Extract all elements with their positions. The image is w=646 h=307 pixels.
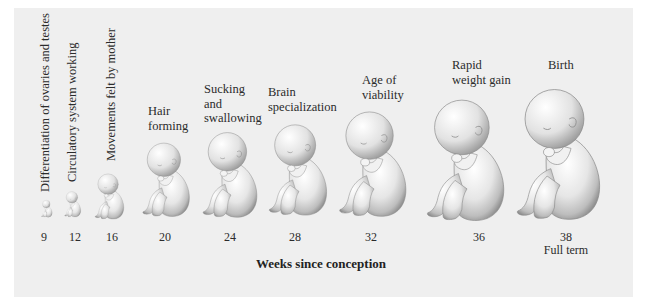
week-label-20: 20 [135, 231, 195, 244]
week-label-36: 36 [449, 231, 509, 244]
week-label-38: 38 Full term [536, 231, 596, 257]
fetus-illustration-week-32 [337, 106, 411, 220]
week-label-24: 24 [200, 231, 260, 244]
week-label-28: 28 [265, 231, 325, 244]
axis-title: Weeks since conception [256, 256, 386, 272]
fetus-illustration-week-20 [141, 140, 193, 218]
milestone-label-week-9: Differentiation of ovaries and testes [38, 13, 52, 192]
milestone-label-week-32: Age of viability [362, 73, 404, 102]
milestone-label-week-36: Rapid weight gain [452, 58, 511, 87]
fetus-illustration-week-16 [94, 172, 126, 220]
milestone-label-week-24: Sucking and swallowing [204, 82, 262, 126]
fetus-illustration-week-28 [267, 118, 331, 220]
milestone-label-week-16: Movements felt by mother [104, 28, 118, 161]
fetus-illustration-week-36 [424, 95, 510, 223]
fetus-illustration-week-12 [64, 190, 82, 218]
milestone-label-week-38: Birth [548, 58, 574, 73]
fetus-illustration-week-24 [201, 128, 261, 220]
fetus-illustration-week-9 [41, 199, 53, 218]
week-label-32: 32 [341, 231, 401, 244]
week-label-16: 16 [82, 231, 142, 244]
milestone-label-week-28: Brain specialization [268, 85, 337, 114]
milestone-label-week-12: Circulatory system working [65, 42, 79, 182]
milestone-label-week-20: Hair forming [148, 104, 188, 133]
fetus-illustration-week-38 [514, 78, 606, 228]
